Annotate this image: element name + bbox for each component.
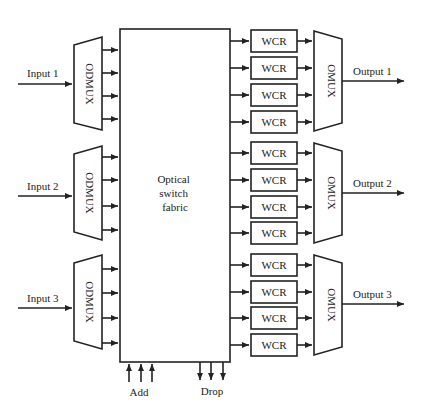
odmux-3-label: ODMUX [84, 281, 96, 323]
oxc-diagram: Optical switch fabric ODMUX Input 1 ODMU… [0, 0, 427, 412]
output-group-3: WCR WCR WCR WCR OMUX Output 3 [230, 254, 404, 356]
svg-text:WCR: WCR [261, 339, 287, 351]
odmux-1-label: ODMUX [84, 63, 96, 105]
output-3-label: Output 3 [353, 288, 392, 300]
svg-text:WCR: WCR [261, 35, 287, 47]
output-group-1: WCR WCR WCR WCR OMUX Output 1 [230, 30, 404, 133]
input-group-2: ODMUX Input 2 [18, 146, 118, 240]
svg-text:WCR: WCR [261, 89, 287, 101]
svg-text:WCR: WCR [261, 286, 287, 298]
input-1-label: Input 1 [27, 67, 58, 79]
input-group-1: ODMUX Input 1 [18, 37, 118, 130]
input-3-label: Input 3 [27, 292, 59, 304]
add-ports: Add [129, 364, 152, 398]
svg-text:WCR: WCR [261, 201, 287, 213]
svg-text:WCR: WCR [261, 227, 287, 239]
input-group-3: ODMUX Input 3 [18, 255, 118, 349]
odmux-2-label: ODMUX [84, 172, 96, 214]
omux-1-label: OMUX [326, 64, 338, 98]
svg-text:WCR: WCR [261, 312, 287, 324]
omux-3-label: OMUX [326, 288, 338, 322]
output-group-2: WCR WCR WCR WCR OMUX Output 2 [230, 142, 404, 244]
input-2-label: Input 2 [27, 180, 58, 192]
svg-text:WCR: WCR [261, 116, 287, 128]
svg-text:WCR: WCR [261, 259, 287, 271]
svg-text:WCR: WCR [261, 62, 287, 74]
drop-label: Drop [201, 385, 224, 397]
svg-text:WCR: WCR [261, 147, 287, 159]
svg-text:WCR: WCR [261, 174, 287, 186]
output-1-label: Output 1 [353, 65, 392, 77]
omux-2-label: OMUX [326, 176, 338, 210]
drop-ports: Drop [200, 362, 224, 397]
add-label: Add [130, 386, 149, 398]
output-2-label: Output 2 [353, 177, 392, 189]
switch-fabric-label: Optical switch fabric [157, 173, 192, 213]
